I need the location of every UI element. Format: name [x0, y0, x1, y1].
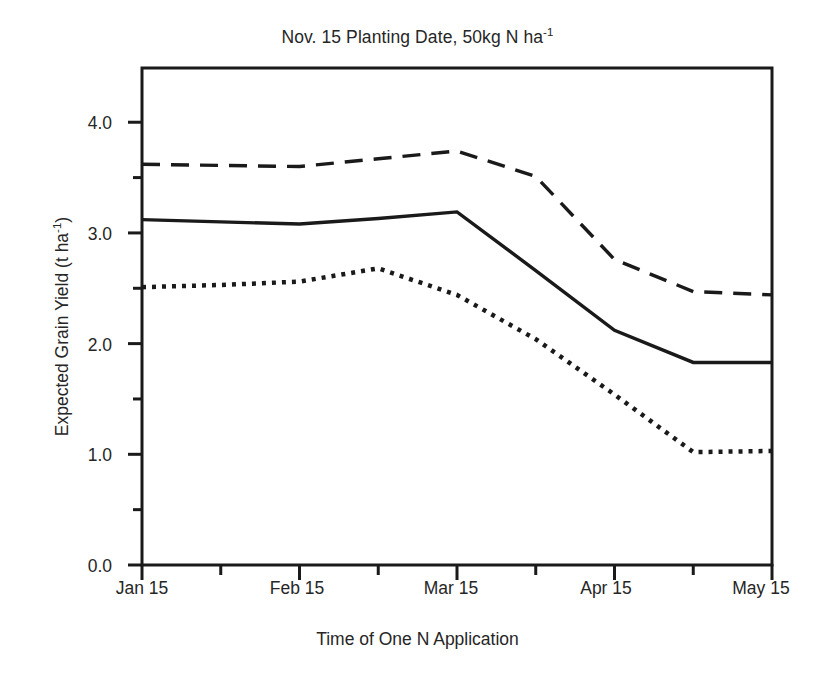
chart-figure: Nov. 15 Planting Date, 50kg N ha-1 Expec…: [0, 0, 835, 679]
data-series-group: [142, 151, 772, 452]
plot-frame: [142, 68, 772, 565]
series-line-middle-solid: [142, 212, 772, 363]
series-line-lower-dotted: [142, 268, 772, 452]
plot-area: [0, 0, 835, 679]
